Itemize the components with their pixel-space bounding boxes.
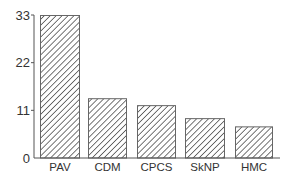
x-tick-label: HMC xyxy=(241,161,267,173)
y-axis: 0112233 xyxy=(16,8,34,166)
bar-pav xyxy=(41,16,80,159)
x-axis: PAVCDMCPCSSkNPHMC xyxy=(34,158,280,173)
y-tick-label: 11 xyxy=(17,103,31,118)
bar-cpcs xyxy=(138,106,176,158)
bar-hmc xyxy=(236,127,273,158)
y-tick-label: 33 xyxy=(16,8,30,23)
y-tick-label: 0 xyxy=(23,151,30,166)
y-tick-label: 22 xyxy=(16,55,30,70)
x-tick-label: SkNP xyxy=(190,161,220,173)
bar-cdm xyxy=(89,99,127,158)
x-tick-label: CPCS xyxy=(141,161,173,173)
bars xyxy=(41,16,273,159)
bar-sknp xyxy=(186,119,225,158)
x-tick-label: CDM xyxy=(94,161,120,173)
bar-chart: 0112233 PAVCDMCPCSSkNPHMC xyxy=(0,0,291,182)
x-tick-label: PAV xyxy=(49,161,71,173)
